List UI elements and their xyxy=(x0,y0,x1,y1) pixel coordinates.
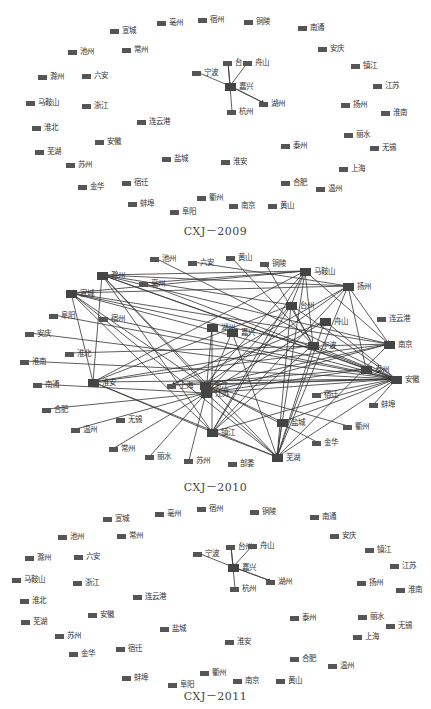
node: 杭州 xyxy=(230,585,256,593)
node-label: 宁波 xyxy=(322,342,336,350)
node-label: 淮北 xyxy=(32,597,46,605)
node-marker-icon xyxy=(73,581,82,586)
node-marker-icon xyxy=(116,647,125,652)
node-label: 淮北 xyxy=(44,124,58,132)
node-marker-icon xyxy=(20,360,29,365)
node: 南通 xyxy=(310,513,336,521)
node-label: 宿州 xyxy=(209,505,223,513)
node: 淮南 xyxy=(20,358,46,366)
node-marker-icon xyxy=(277,419,288,427)
node-label: 合肥 xyxy=(293,179,307,187)
node-label: 宿州 xyxy=(111,315,125,323)
node-marker-icon xyxy=(66,290,77,298)
node: 盐城 xyxy=(162,155,188,163)
node: 浙江 xyxy=(73,579,99,587)
node: 安徽 xyxy=(391,376,419,384)
node-marker-icon xyxy=(49,314,58,319)
node-label: 杭州 xyxy=(239,108,253,116)
node-label: 六安 xyxy=(86,553,100,561)
node: 江苏 xyxy=(390,562,416,570)
node-marker-icon xyxy=(259,102,268,107)
node-label: 安庆 xyxy=(342,532,356,540)
node-marker-icon xyxy=(97,272,108,280)
node-label: 苏州 xyxy=(67,632,81,640)
node: 宿州 xyxy=(197,505,223,513)
node-label: 铜陵 xyxy=(256,18,270,26)
node-marker-icon xyxy=(250,510,259,515)
node: 嘉兴 xyxy=(225,83,253,91)
node: 台州 xyxy=(286,302,314,310)
node: 淮南 xyxy=(396,586,422,594)
node: 滁州 xyxy=(38,73,64,81)
node-label: 淮安 xyxy=(233,158,247,166)
node-marker-icon xyxy=(207,324,218,332)
network-panel-2: 池州六安黄山铜陵马鞍山滁州亳州扬州宣城台州阜阳宿州连云港舟山安庆湖州嘉兴宁波南京… xyxy=(0,240,431,490)
node-marker-icon xyxy=(42,408,51,413)
node-marker-icon xyxy=(225,640,234,645)
node-marker-icon xyxy=(343,283,354,291)
node-marker-icon xyxy=(365,548,374,553)
node-label: 扬州 xyxy=(357,283,371,291)
node-label: 温州 xyxy=(328,185,342,193)
node-marker-icon xyxy=(193,552,202,557)
node-marker-icon xyxy=(260,262,269,267)
node-label: 池州 xyxy=(70,533,84,541)
node-label: 江苏 xyxy=(402,562,416,570)
node-label: 宣城 xyxy=(122,27,136,35)
node-label: 池州 xyxy=(80,48,94,56)
node: 舟山 xyxy=(320,318,348,326)
node-marker-icon xyxy=(128,202,137,207)
node-label: 宁波 xyxy=(205,550,219,558)
node-label: 铜陵 xyxy=(262,508,276,516)
node: 宣城 xyxy=(110,27,136,35)
node-label: 马鞍山 xyxy=(314,268,335,276)
node-marker-icon xyxy=(300,268,311,276)
node-label: 台 xyxy=(235,59,242,67)
node-label: 淮安 xyxy=(102,379,116,387)
node-marker-icon xyxy=(197,196,206,201)
node: 南京 xyxy=(384,341,412,349)
node: 常州 xyxy=(117,532,143,540)
node-marker-icon xyxy=(167,384,176,389)
node-marker-icon xyxy=(170,210,179,215)
node: 宁波 xyxy=(308,342,336,350)
node-label: 舟山 xyxy=(260,542,274,550)
node: 宿州 xyxy=(198,16,224,24)
node: 嘉兴 xyxy=(228,564,256,572)
node-marker-icon xyxy=(248,544,257,549)
node: 六安 xyxy=(82,72,108,80)
node: 上海 xyxy=(353,633,379,641)
node-label: 蚌埠 xyxy=(381,401,395,409)
node: 常州 xyxy=(122,46,148,54)
node-marker-icon xyxy=(200,671,209,676)
node-label: 常州 xyxy=(121,445,135,453)
node-marker-icon xyxy=(390,564,399,569)
node: 淮安 xyxy=(221,158,247,166)
node-label: 镇江 xyxy=(363,62,377,70)
node-label: 扬州 xyxy=(369,579,383,587)
node-label: 丽水 xyxy=(370,613,384,621)
node: 金华 xyxy=(78,183,104,191)
node: 铜陵 xyxy=(250,508,276,516)
node: 舟山 xyxy=(243,59,269,67)
node-marker-icon xyxy=(150,257,159,262)
node-marker-icon xyxy=(339,167,348,172)
node-label: 六安 xyxy=(94,72,108,80)
node: 芜湖 xyxy=(35,148,61,156)
node-label: 阜阳 xyxy=(182,208,196,216)
node-marker-icon xyxy=(361,366,372,374)
node-marker-icon xyxy=(139,282,148,287)
node-label: 南通 xyxy=(45,381,59,389)
node-label: 衢州 xyxy=(209,194,223,202)
node-label: 池州 xyxy=(162,255,176,263)
node-label: 宿州 xyxy=(210,16,224,24)
edge xyxy=(71,293,93,382)
node-label: 金华 xyxy=(324,439,338,447)
node-marker-icon xyxy=(117,534,126,539)
node-marker-icon xyxy=(298,26,307,31)
node-label: 连云港 xyxy=(149,118,170,126)
node-marker-icon xyxy=(290,657,299,662)
node: 宁波 xyxy=(193,550,219,558)
node-label: 嘉兴 xyxy=(241,329,255,337)
node: 池州 xyxy=(150,255,176,263)
